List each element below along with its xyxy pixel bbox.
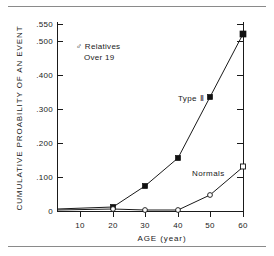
figure-container: .550 .500 .400 .300 .200 .100 0 10 20 30… [0, 0, 274, 256]
xtick-label-30: 30 [140, 221, 150, 230]
ytick-label-300: .300 [36, 105, 53, 114]
annotation-relatives-line1: ♂ Relatives [76, 42, 120, 51]
series-label-type2: Type Ⅱ [178, 94, 204, 103]
series-markers-normals [111, 164, 246, 212]
chart-canvas: .550 .500 .400 .300 .200 .100 0 10 20 30… [0, 0, 274, 256]
xtick-label-40: 40 [173, 221, 183, 230]
y-axis-ticks [57, 24, 63, 211]
series-markers-type2 [111, 31, 247, 210]
ytick-label-100: .100 [36, 173, 53, 182]
y-axis-title: CUMULATIVE PROABILITY OF AN EVENT [15, 26, 24, 211]
ytick-label-0: 0 [48, 207, 53, 216]
xtick-label-10: 10 [75, 221, 85, 230]
ytick-label-500: .500 [36, 37, 53, 46]
ytick-label-200: .200 [36, 139, 53, 148]
series-label-normals: Normals [192, 169, 225, 178]
xtick-label-60: 60 [238, 221, 248, 230]
right-axis-ticks [237, 24, 243, 177]
xtick-label-50: 50 [205, 221, 215, 230]
ytick-label-550: .550 [36, 20, 53, 29]
annotation-relatives-line2: Over 19 [84, 53, 115, 62]
ytick-label-400: .400 [36, 71, 53, 80]
x-axis-title: AGE (year) [137, 234, 186, 243]
xtick-label-20: 20 [108, 221, 118, 230]
x-axis-ticks [80, 211, 243, 217]
